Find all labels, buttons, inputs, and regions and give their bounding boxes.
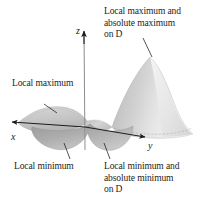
annotation-local-minimum: Local minimum [14, 161, 74, 173]
annotation-local-and-absolute-minimum: Local minimum and absolute minimum on D [104, 161, 179, 196]
leader-max-abs [143, 38, 152, 57]
x-axis-label: x [11, 131, 15, 142]
surface-plot-figure: Local maximum and absolute maximum on D … [0, 0, 203, 208]
annotation-local-maximum: Local maximum [12, 78, 73, 90]
surface-main-peak [112, 57, 193, 138]
annotation-local-and-absolute-maximum: Local maximum and absolute maximum on D [104, 6, 181, 41]
z-axis-label: z [76, 25, 80, 36]
y-axis-label: y [148, 140, 152, 151]
